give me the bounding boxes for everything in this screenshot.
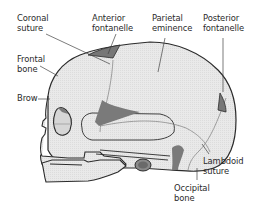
skull-diagram: Coronal suture Anterior fontanelle Parie… <box>0 0 256 211</box>
zygomatic-arch <box>81 113 174 140</box>
label-anterior-fontanelle: Anterior fontanelle <box>92 14 133 33</box>
label-frontal-bone: Frontal bone <box>17 55 45 74</box>
mandible <box>42 160 126 182</box>
label-lambdoid-suture: Lambdoid suture <box>203 157 244 176</box>
label-coronal-suture: Coronal suture <box>17 14 48 33</box>
label-parietal-eminence: Parietal eminence <box>152 14 192 33</box>
label-brow: Brow <box>17 94 38 104</box>
label-occipital-bone: Occipital bone <box>174 184 210 203</box>
label-posterior-fontanelle: Posterior fontanelle <box>203 14 244 33</box>
